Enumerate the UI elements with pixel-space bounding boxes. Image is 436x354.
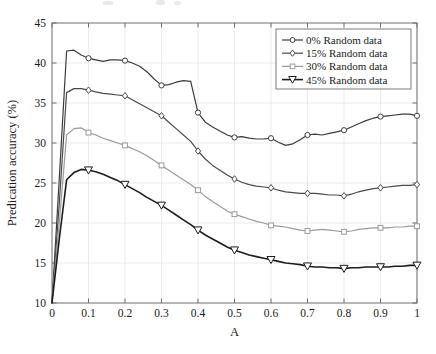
marker-square xyxy=(86,130,91,135)
y-tick-label: 20 xyxy=(35,217,47,229)
y-axis-label: Predication accuracy (%) xyxy=(5,100,19,226)
marker-diamond xyxy=(268,185,273,192)
x-tick-label: 0.1 xyxy=(81,307,96,319)
marker-diamond xyxy=(122,93,127,100)
series-4 xyxy=(52,167,421,303)
marker-square xyxy=(232,212,237,217)
marker-circle xyxy=(290,38,295,43)
marker-square xyxy=(378,225,383,230)
series-3 xyxy=(52,128,419,303)
legend: 0% Random data15% Random data30% Random … xyxy=(276,29,411,89)
x-tick-label: 0.3 xyxy=(154,307,169,319)
marker-square xyxy=(123,143,128,148)
x-tick-label: 0.6 xyxy=(264,307,279,319)
y-tick-label: 45 xyxy=(35,17,47,29)
legend-label: 15% Random data xyxy=(306,47,387,59)
marker-circle xyxy=(86,56,91,61)
chart-figure: 00.10.20.30.40.50.60.70.80.9110152025303… xyxy=(0,0,436,354)
marker-circle xyxy=(378,114,383,119)
marker-circle xyxy=(414,113,419,118)
marker-triangle-down xyxy=(121,181,129,188)
marker-circle xyxy=(195,110,200,115)
marker-diamond xyxy=(414,181,419,188)
marker-square xyxy=(342,229,347,234)
marker-square xyxy=(415,224,420,229)
marker-diamond xyxy=(341,193,346,200)
x-tick-label: 0.4 xyxy=(191,307,206,319)
marker-square xyxy=(269,223,274,228)
x-tick-label: 1 xyxy=(414,307,420,319)
marker-diamond xyxy=(86,87,91,94)
marker-circle xyxy=(122,58,127,63)
legend-label: 45% Random data xyxy=(306,74,387,86)
x-tick-label: 0.5 xyxy=(227,307,242,319)
marker-circle xyxy=(341,128,346,133)
marker-diamond xyxy=(378,185,383,192)
marker-diamond xyxy=(232,176,237,183)
marker-square xyxy=(196,188,201,193)
y-tick-label: 15 xyxy=(35,257,47,269)
x-tick-label: 0 xyxy=(49,307,55,319)
marker-diamond xyxy=(305,190,310,197)
legend-label: 0% Random data xyxy=(306,34,382,46)
x-tick-label: 0.7 xyxy=(300,307,315,319)
legend-label: 30% Random data xyxy=(306,60,387,72)
marker-circle xyxy=(232,135,237,140)
y-tick-label: 25 xyxy=(35,177,47,189)
line-chart: 00.10.20.30.40.50.60.70.80.9110152025303… xyxy=(0,0,436,354)
y-tick-label: 10 xyxy=(35,297,47,309)
marker-circle xyxy=(159,83,164,88)
y-tick-label: 30 xyxy=(35,137,47,149)
x-axis-label: A xyxy=(230,325,239,339)
marker-circle xyxy=(305,132,310,137)
x-tick-label: 0.9 xyxy=(373,307,388,319)
y-tick-label: 35 xyxy=(35,97,47,109)
series-2 xyxy=(52,87,420,303)
marker-square xyxy=(305,229,310,234)
y-tick-label: 40 xyxy=(35,57,47,69)
x-tick-label: 0.8 xyxy=(337,307,352,319)
marker-square xyxy=(159,163,164,168)
marker-circle xyxy=(268,136,273,141)
marker-square xyxy=(290,64,295,69)
x-tick-label: 0.2 xyxy=(118,307,133,319)
